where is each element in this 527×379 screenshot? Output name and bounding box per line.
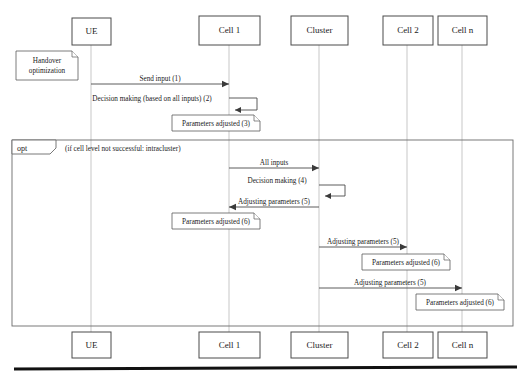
self-message-line-msg-4 xyxy=(319,185,345,196)
actor-foot-label-cluster: Cluster xyxy=(307,340,333,350)
note-handover-line-1: optimization xyxy=(29,67,66,75)
message-msg-5-cell1: Adjusting parameters (5) xyxy=(229,198,319,210)
actor-head-label-cluster: Cluster xyxy=(307,25,333,35)
message-msg-all-inputs: All inputs xyxy=(229,159,319,171)
note-handover-fold xyxy=(72,51,78,57)
actor-head-cell1: Cell 1 xyxy=(199,16,260,45)
note-params-adjusted-6-cell1-line-0: Parameters adjusted (6) xyxy=(182,218,250,226)
actor-head-label-cell1: Cell 1 xyxy=(219,25,241,35)
note-params-adjusted-6-cell2-fold xyxy=(444,254,450,260)
actor-head-label-cell2: Cell 2 xyxy=(397,25,419,35)
message-label-msg-5-cell1: Adjusting parameters (5) xyxy=(238,198,310,206)
arrowhead-msg-4 xyxy=(325,193,331,199)
self-message-line-msg-2 xyxy=(229,98,257,110)
note-params-adjusted-6-celln: Parameters adjusted (6) xyxy=(416,294,504,310)
actor-head-ue: UE xyxy=(72,18,111,45)
actor-head-celln: Cell n xyxy=(438,16,487,45)
message-label-msg-2: Decision making (based on all inputs) (2… xyxy=(92,95,212,103)
message-label-msg-4: Decision making (4) xyxy=(247,177,307,185)
arrowhead-msg-5-cell2 xyxy=(400,244,407,250)
note-params-adjusted-6-celln-line-0: Parameters adjusted (6) xyxy=(426,299,494,307)
note-handover-line-0: Handover xyxy=(33,57,62,65)
actor-head-label-ue: UE xyxy=(86,26,98,36)
actor-foot-celln: Cell n xyxy=(438,332,487,358)
message-msg-4: Decision making (4) xyxy=(247,177,345,199)
message-label-msg-1: Send input (1) xyxy=(139,75,181,83)
actor-foot-label-cell2: Cell 2 xyxy=(397,340,419,350)
actor-head-cluster: Cluster xyxy=(291,16,348,45)
actor-foot-cell1: Cell 1 xyxy=(199,332,260,358)
note-handover-body xyxy=(16,51,78,80)
lifelines-layer xyxy=(91,45,462,332)
actor-foot-label-ue: UE xyxy=(86,340,98,350)
arrowhead-msg-1 xyxy=(222,81,229,87)
note-params-adjusted-3-line-0: Parameters adjusted (3) xyxy=(182,120,250,128)
note-params-adjusted-6-cell2-line-0: Parameters adjusted (6) xyxy=(372,259,440,267)
message-msg-1: Send input (1) xyxy=(91,75,229,87)
note-params-adjusted-3: Parameters adjusted (3) xyxy=(172,115,260,131)
note-params-adjusted-6-celln-fold xyxy=(498,294,504,300)
message-msg-5-cell2: Adjusting parameters (5) xyxy=(319,238,407,250)
actor-head-label-celln: Cell n xyxy=(452,25,474,35)
message-msg-2: Decision making (based on all inputs) (2… xyxy=(92,95,257,113)
actor-foot-cluster: Cluster xyxy=(291,332,348,358)
actor-head-cell2: Cell 2 xyxy=(383,16,433,45)
actor-foot-label-cell1: Cell 1 xyxy=(219,340,241,350)
sequence-diagram-svg: opt(if cell level not successful: intrac… xyxy=(0,0,527,379)
actor-foot-label-celln: Cell n xyxy=(452,340,474,350)
arrowhead-msg-all-inputs xyxy=(312,165,319,171)
message-msg-5-celln: Adjusting parameters (5) xyxy=(319,279,462,291)
opt-fragment-operator-label: opt xyxy=(17,144,28,153)
arrowhead-msg-2 xyxy=(235,107,241,113)
arrowhead-msg-5-cell1 xyxy=(229,204,236,210)
sequence-diagram-canvas: opt(if cell level not successful: intrac… xyxy=(0,0,527,379)
message-label-msg-5-celln: Adjusting parameters (5) xyxy=(354,279,426,287)
actor-foot-ue: UE xyxy=(72,332,111,358)
note-params-adjusted-6-cell1: Parameters adjusted (6) xyxy=(172,213,260,229)
note-params-adjusted-6-cell1-fold xyxy=(254,213,260,219)
actor-foot-cell2: Cell 2 xyxy=(383,332,433,358)
arrowhead-msg-5-celln xyxy=(455,285,462,291)
note-params-adjusted-6-cell2: Parameters adjusted (6) xyxy=(362,254,450,270)
note-handover: Handoveroptimization xyxy=(16,51,78,80)
opt-fragment-guard-label: (if cell level not successful: intraclus… xyxy=(65,145,181,153)
message-label-msg-all-inputs: All inputs xyxy=(260,159,289,167)
message-label-msg-5-cell2: Adjusting parameters (5) xyxy=(327,238,399,246)
footer-layer xyxy=(14,367,517,369)
footer-rule xyxy=(14,367,517,369)
